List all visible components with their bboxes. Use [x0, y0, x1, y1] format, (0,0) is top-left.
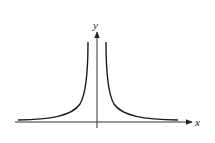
- y-axis-label: y: [92, 19, 98, 31]
- x-axis-label: x: [194, 116, 200, 128]
- curve-left-branch: [18, 42, 88, 120]
- function-graph: y x: [0, 0, 215, 143]
- curve-right-branch: [106, 42, 178, 120]
